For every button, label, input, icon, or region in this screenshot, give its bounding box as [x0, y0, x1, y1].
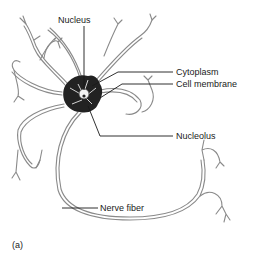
- nerve-fiber-label: Nerve fiber: [100, 203, 144, 213]
- panel-label: (a): [12, 240, 23, 250]
- nucleolus-leader: [88, 106, 173, 136]
- nucleolus-label: Nucleolus: [176, 131, 216, 141]
- cell-membrane-label: Cell membrane: [176, 79, 237, 89]
- cell-body: [63, 75, 102, 112]
- leader-lines: [62, 26, 173, 208]
- nucleus-label: Nucleus: [58, 15, 91, 25]
- neuron-diagram: [0, 0, 259, 257]
- dendrites: [12, 14, 230, 222]
- cytoplasm-label: Cytoplasm: [176, 67, 219, 77]
- nucleolus-shape: [82, 94, 85, 97]
